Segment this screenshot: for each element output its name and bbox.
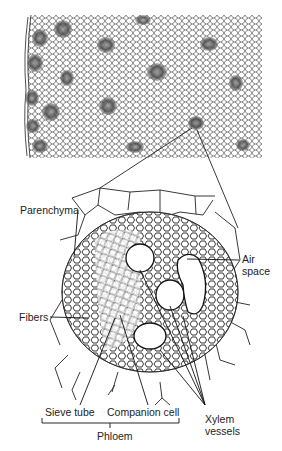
stem-cross-section-diagram (0, 0, 282, 451)
xylem-vessel-2 (156, 280, 184, 310)
label-sieve-tube: Sieve tube (45, 406, 95, 418)
top-cross-section (25, 15, 262, 158)
label-xylem-2: vessels (205, 425, 240, 437)
label-parenchyma: Parenchyma (20, 204, 79, 216)
xylem-vessel-1 (126, 244, 154, 272)
phloem-bracket (42, 418, 179, 428)
label-fibers: Fibers (19, 311, 48, 323)
label-xylem-1: Xylem (205, 413, 234, 425)
highlighted-bundle (188, 116, 204, 130)
label-air-space-2: space (242, 265, 270, 277)
xylem-vessel-3 (134, 323, 166, 349)
label-phloem: Phloem (97, 430, 133, 442)
label-air-space-1: Air (242, 253, 255, 265)
enlarged-bundle (42, 188, 250, 428)
label-companion-cell: Companion cell (107, 406, 179, 418)
